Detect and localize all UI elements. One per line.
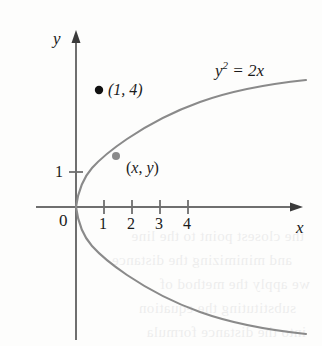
x-tick-label-1: 1	[99, 216, 107, 232]
x-tick-label-3: 3	[155, 216, 163, 232]
y-axis-label: y	[53, 30, 61, 47]
point-label-x-y: (x, y)	[126, 160, 159, 176]
parabola-figure: the closest point to the line and minimi…	[0, 0, 322, 346]
x-tick-label-4: 4	[183, 216, 191, 232]
plot-canvas	[0, 0, 322, 346]
curve-equation-label: y2 = 2x	[215, 62, 264, 79]
y-axis-arrowhead	[72, 30, 81, 43]
point-marker-1-4	[95, 86, 103, 94]
point-y-var: y	[146, 159, 153, 176]
x-axis-label: x	[296, 219, 304, 236]
y-tick-label-1: 1	[55, 164, 63, 180]
origin-label: 0	[59, 212, 68, 229]
point-marker-x-y	[112, 152, 120, 160]
x-axis-arrowhead	[290, 203, 303, 212]
point-label-1-4: (1, 4)	[108, 82, 143, 98]
paren-close: )	[154, 159, 159, 176]
parabola-lower-branch	[76, 207, 306, 334]
equation-rhs: = 2x	[228, 61, 264, 80]
equation-base: y	[215, 61, 223, 80]
x-tick-label-2: 2	[127, 216, 135, 232]
parabola-upper-branch	[76, 80, 306, 207]
